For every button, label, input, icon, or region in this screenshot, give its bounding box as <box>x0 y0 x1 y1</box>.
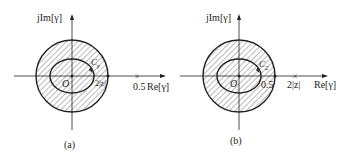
pole-outer-mark: × <box>135 72 140 81</box>
panel-b: × <box>180 14 328 130</box>
x-axis-arrow <box>160 74 166 78</box>
contour-subscript: 2 <box>265 64 269 72</box>
y-axis-arrow <box>70 14 74 20</box>
y-axis-label: jIm[γ] <box>206 13 231 23</box>
outer-point-label: 2|z| <box>287 80 300 90</box>
panel-a: × <box>14 14 166 130</box>
caption-b: (b) <box>230 135 242 146</box>
y-axis-arrow <box>237 14 241 20</box>
origin-label: O <box>62 79 69 89</box>
inner-point-label: 2|z| <box>95 80 106 88</box>
pole-inner <box>107 75 110 78</box>
pole-inner <box>274 75 277 78</box>
inner-point-label: 0.5 <box>261 80 274 90</box>
origin-point <box>238 75 241 78</box>
contour-label: C2 <box>259 60 269 72</box>
y-axis-label: jIm[γ] <box>37 13 62 23</box>
contour-label: Cγ <box>91 58 100 70</box>
caption-a: (a) <box>64 139 75 150</box>
origin-point <box>71 75 74 78</box>
x-axis-arrow <box>322 74 328 78</box>
x-axis-label: Re[γ] <box>314 80 336 90</box>
x-axis-label: Re[γ] <box>147 82 169 92</box>
origin-label: O <box>230 79 237 89</box>
contour-subscript: γ <box>97 62 100 70</box>
outer-point-label: 0.5 <box>133 82 146 92</box>
